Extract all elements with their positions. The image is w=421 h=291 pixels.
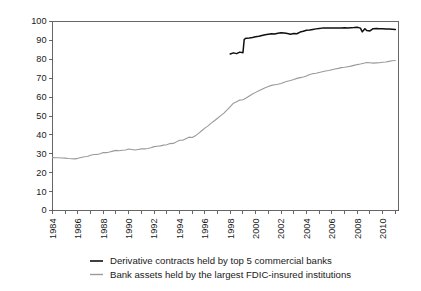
legend-label-1: Derivative contracts held by top 5 comme… [110, 255, 332, 266]
x-axis-tick-label: 1996 [200, 219, 210, 239]
y-axis-tick-label: 100 [31, 16, 46, 26]
y-axis-tick-label: 0 [41, 205, 46, 215]
x-axis-tick-label: 1984 [48, 219, 58, 239]
x-axis-tick-label: 1988 [99, 219, 109, 239]
x-axis-tick-label: 2010 [378, 219, 388, 239]
line-chart: 0102030405060708090100 19841986198819901… [0, 0, 421, 291]
x-axis-tick-label: 2008 [353, 219, 363, 239]
x-axis-tick-label: 1986 [73, 219, 83, 239]
y-axis: 0102030405060708090100 [31, 16, 52, 215]
chart-container: 0102030405060708090100 19841986198819901… [0, 0, 421, 291]
y-axis-tick-label: 80 [36, 54, 46, 64]
x-axis-tick-label: 2002 [276, 219, 286, 239]
axis-lines [53, 22, 399, 211]
chart-legend: Derivative contracts held by top 5 comme… [90, 255, 351, 280]
series-line-2 [53, 60, 396, 158]
series-lines [53, 27, 396, 159]
y-axis-tick-label: 30 [36, 149, 46, 159]
x-axis-tick-label: 1994 [175, 219, 185, 239]
y-axis-tick-label: 10 [36, 187, 46, 197]
y-axis-tick-label: 90 [36, 35, 46, 45]
legend-label-2: Bank assets held by the largest FDIC-ins… [110, 269, 351, 280]
y-axis-tick-label: 40 [36, 130, 46, 140]
y-axis-tick-label: 60 [36, 92, 46, 102]
series-line-1 [230, 27, 395, 54]
y-axis-tick-label: 70 [36, 73, 46, 83]
x-axis-tick-label: 2000 [251, 219, 261, 239]
x-axis: 1984198619881990199219941996199820002002… [48, 211, 395, 239]
x-axis-tick-label: 2004 [302, 219, 312, 239]
y-axis-tick-label: 50 [36, 111, 46, 121]
x-axis-tick-label: 1990 [124, 219, 134, 239]
x-axis-tick-label: 1992 [149, 219, 159, 239]
x-axis-tick-label: 1998 [226, 219, 236, 239]
y-axis-tick-label: 20 [36, 168, 46, 178]
x-axis-tick-label: 2006 [327, 219, 337, 239]
